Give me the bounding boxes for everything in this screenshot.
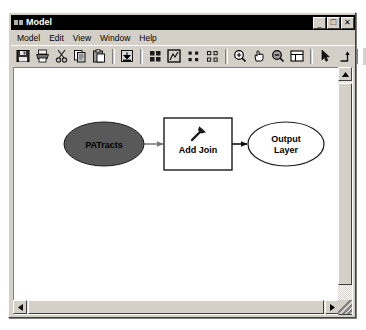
auto-layout-button[interactable] — [146, 48, 164, 65]
magnifier-plus-icon — [233, 49, 247, 63]
add-data-arrow-icon — [120, 49, 134, 63]
full-extent-button[interactable] — [165, 48, 183, 65]
copy-button[interactable] — [71, 48, 89, 65]
toolbar-separator-2 — [140, 49, 143, 64]
zoom-in-button[interactable] — [231, 48, 249, 65]
scroll-up-button[interactable] — [338, 67, 352, 81]
deselect-button[interactable] — [203, 48, 221, 65]
model-window: Model _ □ ✕ Model Edit View Window Help — [8, 12, 356, 318]
tool-rectangle[interactable]: Add Join — [164, 118, 232, 170]
zoom-window-button[interactable] — [288, 48, 306, 65]
close-button[interactable]: ✕ — [341, 17, 354, 29]
toolbar-separator-5 — [357, 49, 360, 64]
maximize-button[interactable]: □ — [327, 17, 340, 29]
resize-grip[interactable] — [338, 300, 352, 314]
paste-button[interactable] — [90, 48, 108, 65]
tool-label: Add Join — [179, 145, 218, 155]
scissors-icon — [55, 49, 68, 63]
horizontal-scroll-thumb[interactable] — [28, 300, 324, 314]
menu-item-help[interactable]: Help — [135, 32, 161, 44]
connect-button[interactable] — [335, 48, 353, 65]
minimize-button[interactable]: _ — [313, 17, 326, 29]
print-button[interactable] — [33, 48, 51, 65]
scroll-right-button[interactable] — [325, 300, 339, 314]
zoom-window-icon — [290, 50, 304, 62]
four-dots-outline-icon — [206, 50, 219, 63]
chevron-up-icon — [342, 72, 349, 77]
cut-button[interactable] — [52, 48, 70, 65]
output-data-label-line1: Output — [271, 134, 301, 144]
window-title: Model — [26, 17, 312, 28]
grid-squares-icon — [149, 50, 162, 63]
menu-item-edit[interactable]: Edit — [45, 32, 69, 44]
chevron-right-icon — [330, 304, 335, 311]
input-data-label: PATracts — [85, 140, 123, 150]
toolbar-separator-4 — [310, 49, 313, 64]
horizontal-scrollbar[interactable] — [13, 300, 339, 314]
close-glyph: ✕ — [342, 18, 353, 28]
toolbar-separator-1 — [112, 49, 115, 64]
zoom-out-button[interactable] — [269, 48, 287, 65]
full-extent-icon — [167, 49, 181, 63]
output-data-oval[interactable]: Output Layer — [248, 122, 324, 166]
scroll-left-button[interactable] — [13, 300, 27, 314]
pan-button[interactable] — [250, 48, 268, 65]
menu-item-window[interactable]: Window — [96, 32, 135, 44]
connect-elbow-arrow-icon — [338, 50, 351, 63]
copy-pages-icon — [73, 49, 87, 63]
toolbar-separator-3 — [225, 49, 228, 64]
model-canvas[interactable]: PATracts Add Join Output Layer — [13, 67, 353, 315]
menu-bar: Model Edit View Window Help — [11, 31, 355, 45]
arrow-pointer-icon — [319, 49, 331, 63]
clipboard-paste-icon — [92, 49, 106, 63]
magnifier-minus-icon — [271, 49, 285, 63]
menu-item-view[interactable]: View — [69, 32, 96, 44]
save-button[interactable] — [14, 48, 32, 65]
toolbar — [11, 45, 355, 66]
title-bar[interactable]: Model _ □ ✕ — [11, 15, 355, 30]
floppy-disk-icon — [16, 49, 30, 63]
minimize-glyph: _ — [314, 19, 325, 29]
vertical-scrollbar[interactable] — [338, 67, 352, 315]
hand-pan-icon — [252, 49, 266, 63]
vertical-scroll-thumb[interactable] — [338, 83, 352, 285]
add-data-button[interactable] — [118, 48, 136, 65]
select-pointer-button[interactable] — [316, 48, 334, 65]
model-window-icon — [13, 17, 24, 28]
select-all-button[interactable] — [184, 48, 202, 65]
printer-icon — [35, 49, 50, 63]
maximize-glyph: □ — [328, 17, 339, 27]
input-data-oval[interactable]: PATracts — [64, 122, 144, 166]
four-dots-icon — [187, 50, 200, 63]
chevron-left-icon — [18, 304, 23, 311]
model-diagram: PATracts Add Join Output Layer — [14, 68, 352, 314]
menu-item-model[interactable]: Model — [13, 32, 45, 44]
output-data-label-line2: Layer — [274, 145, 299, 155]
